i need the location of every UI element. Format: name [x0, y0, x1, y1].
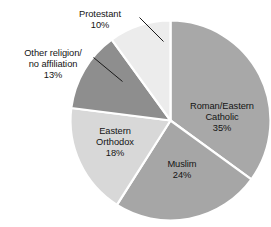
slice-label-other-line1: Other religion/ [1, 48, 105, 59]
slice-label-other-religion: Other religion/ no affiliation 13% [1, 48, 105, 82]
slice-label-muslim: Muslim 24% [146, 159, 218, 181]
slice-label-muslim-line1: Muslim [146, 159, 218, 170]
slice-label-catholic-line2: Catholic [178, 112, 266, 123]
slice-label-protestant-line1: Protestant [54, 9, 146, 20]
slice-label-orthodox-line1: Eastern [76, 126, 154, 137]
slice-label-orthodox: Eastern Orthodox 18% [76, 126, 154, 160]
pie-chart-figure: Roman/Eastern Catholic 35% Muslim 24% Ea… [0, 0, 271, 227]
slice-label-muslim-value: 24% [146, 170, 218, 181]
slice-label-catholic-value: 35% [178, 123, 266, 134]
slice-label-catholic: Roman/Eastern Catholic 35% [178, 101, 266, 135]
slice-label-orthodox-line2: Orthodox [76, 137, 154, 148]
slice-label-catholic-line1: Roman/Eastern [178, 101, 266, 112]
slice-label-orthodox-value: 18% [76, 148, 154, 159]
slice-label-other-value: 13% [1, 70, 105, 81]
slice-label-other-line2: no affiliation [1, 59, 105, 70]
slice-label-protestant-value: 10% [54, 20, 146, 31]
slice-label-protestant: Protestant 10% [54, 9, 146, 31]
